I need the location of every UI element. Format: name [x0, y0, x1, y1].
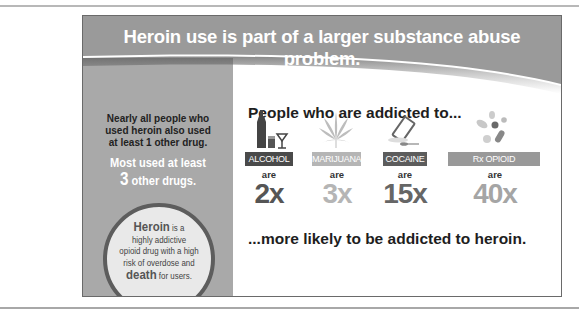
- heroin-definition-text: Heroin is a highly addictive opioid drug…: [113, 221, 205, 283]
- fact2-suffix: other drugs.: [132, 173, 196, 188]
- drug-multiplier: 40x: [450, 178, 540, 210]
- fact1-line: used heroin also used: [83, 125, 233, 137]
- fact-three-other-drugs: Most used at least 3 other drugs.: [94, 154, 222, 189]
- footer-statement: ...more likely to be addicted to heroin.: [248, 230, 526, 248]
- drug-multiplier: 15x: [360, 178, 450, 210]
- bottom-divider: [0, 307, 579, 309]
- infographic-panel: Nearly all people who used heroin also u…: [82, 15, 562, 297]
- drug-label: ALCOHOL: [245, 152, 293, 166]
- drug-label: COCAINE: [383, 152, 427, 166]
- fact-all-used-other-drug: Nearly all people who used heroin also u…: [83, 113, 233, 149]
- heroin-definition-circle: Heroin is a highly addictive opioid drug…: [103, 203, 215, 297]
- circle-line: opioid drug with a high: [113, 246, 205, 258]
- death-word: death: [126, 267, 157, 282]
- top-divider: [0, 5, 579, 7]
- heroin-word: Heroin: [134, 219, 170, 234]
- circle-line: for users.: [159, 271, 192, 281]
- drug-label: Rx OPIOID PAINKILLERS: [448, 152, 540, 166]
- fact1-line: at least 1 other drug.: [83, 137, 233, 149]
- fact2-prefix: Most used at least: [94, 154, 222, 171]
- circle-line: highly addictive: [113, 235, 205, 247]
- circle-line: is a: [172, 223, 184, 233]
- header-title: Heroin use is part of a larger substance…: [83, 26, 561, 70]
- drug-label: MARIJUANA: [312, 152, 361, 166]
- pills-icon: [448, 110, 538, 150]
- fact1-line: Nearly all people who: [83, 113, 233, 125]
- fact2-number: 3: [120, 169, 129, 189]
